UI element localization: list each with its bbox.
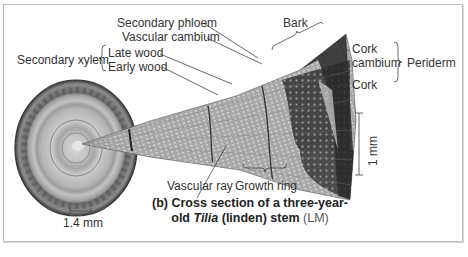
label-late-wood: Late wood <box>108 47 163 60</box>
figure-caption: (b) Cross section of a three-year- old T… <box>150 196 350 226</box>
caption-method: (LM) <box>303 211 329 225</box>
label-secondary-phloem: Secondary phloem <box>117 17 217 30</box>
label-cork: Cork <box>352 79 377 92</box>
label-early-wood: Early wood <box>108 61 167 74</box>
label-vascular-cambium: Vascular cambium <box>122 31 220 44</box>
label-cork-cambium-line2: cambium <box>352 57 401 70</box>
scale-bar-stem-label: 1.4 mm <box>63 217 103 230</box>
label-periderm: Periderm <box>407 57 456 70</box>
caption-genus: Tilia <box>193 211 218 225</box>
caption-line-1: (b) Cross section of a three-year- <box>150 196 350 211</box>
label-vascular-ray: Vascular ray <box>167 180 233 193</box>
label-secondary-xylem: Secondary xylem <box>17 54 109 67</box>
label-cork-cambium-line1: Cork <box>352 43 377 56</box>
caption-line-2: old Tilia (linden) stem (LM) <box>150 211 350 226</box>
label-bark: Bark <box>283 17 308 30</box>
scale-bar-wedge-label: 1 mm <box>366 136 380 166</box>
label-growth-ring: Growth ring <box>235 180 297 193</box>
